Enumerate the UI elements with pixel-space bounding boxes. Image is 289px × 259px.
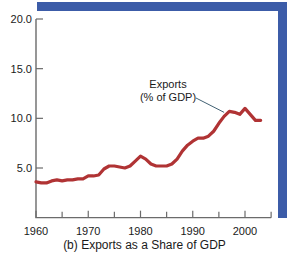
- y-axis-tick-labels: 5.010.015.020.0: [11, 13, 32, 174]
- series-annotation: Exports (% of GDP): [140, 78, 224, 112]
- axes: [36, 19, 271, 218]
- axis-lines: [36, 19, 271, 218]
- y-axis-ticks: [36, 19, 43, 168]
- y-tick-label: 10.0: [11, 112, 32, 124]
- annotation-leader-line: [196, 98, 224, 112]
- exports-share-of-gdp-line-chart: 5.010.015.020.0 19601970198019902000 Exp…: [0, 0, 289, 259]
- annotation-label-line1: Exports: [149, 78, 187, 90]
- annotation-label-line2: (% of GDP): [140, 91, 196, 103]
- figure-caption: (b) Exports as a Share of GDP: [0, 238, 289, 252]
- x-axis-tick-labels: 19601970198019902000: [24, 225, 257, 237]
- x-tick-label: 1960: [24, 225, 48, 237]
- x-axis-ticks: [36, 211, 271, 218]
- y-tick-label: 5.0: [17, 162, 32, 174]
- x-tick-label: 1970: [76, 225, 100, 237]
- x-tick-label: 1980: [128, 225, 152, 237]
- y-tick-label: 15.0: [11, 63, 32, 75]
- series-line-exports: [36, 108, 261, 182]
- x-tick-label: 2000: [233, 225, 257, 237]
- y-tick-label: 20.0: [11, 13, 32, 25]
- x-tick-label: 1990: [181, 225, 205, 237]
- data-series-exports: [36, 108, 261, 182]
- chart-figure: 5.010.015.020.0 19601970198019902000 Exp…: [0, 0, 289, 259]
